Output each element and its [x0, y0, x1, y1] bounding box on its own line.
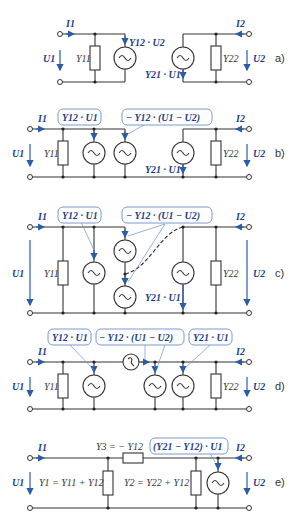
current-I1-label: I1: [37, 346, 47, 357]
voltage-U1-label: U1: [12, 477, 24, 488]
voltage-U1-label: U1: [12, 268, 24, 279]
voltage-U2-label: U2: [253, 381, 265, 392]
Y11-label: Y11: [44, 148, 59, 159]
panel-c: Y12 · U1 − Y12 · (U1 − U2) I1 I2 U1 U2 Y…: [12, 207, 284, 316]
panel-label-b: b): [275, 147, 285, 159]
box-Y21U1: Y21 · U1: [193, 332, 229, 343]
Y2-equation: Y2 = Y22 + Y12: [124, 477, 189, 488]
source-Y12U2-label: Y12 · U2: [129, 37, 165, 48]
panel-b: Y12 · U1 − Y12 · (U1 − U2) I1 I2 U1 U2 Y…: [12, 109, 285, 180]
voltage-U2-label: U2: [253, 477, 265, 488]
box-minusY12-U1-U2: − Y12 · (U1 − U2): [126, 112, 200, 124]
panel-a: I1 U1 Y11 Y12 · U2 I2 U2 Y22 Y21 · U1 a): [43, 18, 285, 85]
panel-label-d: d): [275, 380, 285, 392]
Y22-label: Y22: [223, 268, 239, 279]
Y11-label: Y11: [44, 268, 59, 279]
box-minusY12-U1-U2: − Y12 · (U1 − U2): [99, 332, 173, 344]
current-I2-label: I2: [235, 18, 245, 29]
current-I1-label: I1: [37, 113, 47, 124]
panel-label-e: e): [275, 476, 285, 488]
current-I1-label: I1: [37, 442, 47, 453]
voltage-U1-label: U1: [12, 381, 24, 392]
source-Y21U1-label: Y21 · U1: [145, 292, 181, 303]
current-I2-label: I2: [235, 346, 245, 357]
box-Y21-minus-Y12-U1: (Y21 − Y12) · U1: [153, 441, 222, 453]
voltage-U2-label: U2: [253, 53, 265, 64]
voltage-U1-label: U1: [12, 148, 24, 159]
current-I2-label: I2: [235, 113, 245, 124]
current-I2-label: I2: [235, 211, 245, 222]
current-I2-label: I2: [235, 442, 245, 453]
box-minusY12-U1-U2: − Y12 · (U1 − U2): [126, 210, 200, 222]
panel-label-c: c): [275, 267, 284, 279]
box-Y12U1: Y12 · U1: [52, 332, 88, 343]
voltage-U2-label: U2: [253, 268, 265, 279]
source-Y21U1-label: Y21 · U1: [145, 164, 181, 175]
box-Y12U1: Y12 · U1: [62, 210, 98, 221]
Y11-label: Y11: [76, 53, 91, 64]
box-Y12U1: Y12 · U1: [62, 112, 98, 123]
panel-label-a: a): [275, 52, 285, 64]
Y22-label: Y22: [223, 381, 239, 392]
Y22-label: Y22: [223, 148, 239, 159]
Y11-label: Y11: [44, 381, 59, 392]
current-I1-label: I1: [37, 211, 47, 222]
two-port-network-diagram: I1 U1 Y11 Y12 · U2 I2 U2 Y22 Y21 · U1 a): [0, 0, 301, 524]
Y3-equation: Y3 = − Y12: [96, 441, 143, 452]
panel-e: (Y21 − Y12) · U1 Y3 = − Y12 Y1 = Y11 + Y…: [12, 438, 285, 511]
voltage-U2-label: U2: [253, 148, 265, 159]
panel-d: Y12 · U1 − Y12 · (U1 − U2) Y21 · U1 I1 I…: [12, 329, 285, 412]
source-Y21U1-label: Y21 · U1: [145, 69, 181, 80]
current-I1-label: I1: [65, 18, 75, 29]
Y22-label: Y22: [223, 53, 239, 64]
voltage-U1-label: U1: [43, 53, 55, 64]
Y1-equation: Y1 = Y11 + Y12: [39, 477, 103, 488]
